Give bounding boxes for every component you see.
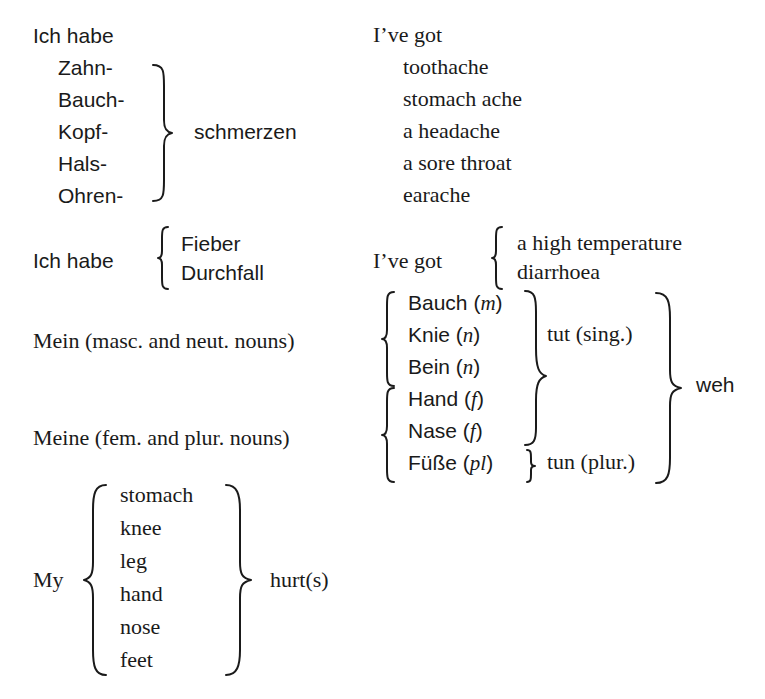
mein-label: Mein (masc. and neut. nouns) [33, 330, 295, 352]
prefix-item: Bauch- [58, 89, 125, 110]
noun-item: Bauch (m) [408, 292, 503, 314]
left-brace-icon [380, 290, 398, 388]
suffix-schmerzen: schmerzen [194, 121, 297, 142]
noun-item: Knie (n) [408, 324, 480, 346]
noun-item: Bein (n) [408, 356, 480, 378]
translation-item: a headache [403, 120, 500, 142]
body-part-item: nose [120, 616, 160, 638]
german-item: Fieber [181, 233, 241, 254]
left-brace-icon [380, 386, 398, 484]
english-item: a high temperature [517, 232, 682, 254]
english-intro: My [33, 569, 64, 591]
right-brace-icon [522, 288, 552, 448]
body-part-item: knee [120, 517, 162, 539]
body-part-item: feet [120, 649, 153, 671]
translation-item: a sore throat [403, 152, 512, 174]
verb-singular: tut (sing.) [547, 323, 633, 345]
right-brace-icon [524, 448, 538, 484]
prefix-item: Zahn- [58, 57, 113, 78]
body-part-item: hand [120, 583, 163, 605]
left-brace-icon [490, 225, 506, 291]
right-brace-icon [150, 62, 180, 204]
verb-plural: tun (plur.) [547, 451, 635, 473]
ending-hurts: hurt(s) [270, 569, 329, 591]
english-item: diarrhoea [517, 261, 600, 283]
noun-item: Füße (pl) [408, 452, 493, 474]
prefix-item: Kopf- [58, 121, 108, 142]
german-item: Durchfall [181, 262, 264, 283]
german-intro: Ich habe [33, 25, 114, 46]
ending-weh: weh [696, 374, 735, 395]
prefix-item: Hals- [58, 153, 107, 174]
translation-item: toothache [403, 56, 489, 78]
prefix-item: Ohren- [58, 185, 123, 206]
english-intro: I’ve got [373, 24, 442, 46]
translation-item: earache [403, 184, 470, 206]
right-brace-icon [653, 290, 687, 486]
german-intro: Ich habe [33, 250, 114, 271]
body-part-item: stomach [120, 484, 193, 506]
noun-item: Nase (f) [408, 420, 483, 442]
right-brace-icon [223, 482, 257, 678]
left-brace-icon [156, 225, 172, 291]
translation-item: stomach ache [403, 88, 522, 110]
left-brace-icon [82, 482, 110, 678]
noun-item: Hand (f) [408, 388, 484, 410]
meine-label: Meine (fem. and plur. nouns) [33, 427, 290, 449]
body-part-item: leg [120, 550, 147, 572]
english-intro: I’ve got [373, 250, 442, 272]
